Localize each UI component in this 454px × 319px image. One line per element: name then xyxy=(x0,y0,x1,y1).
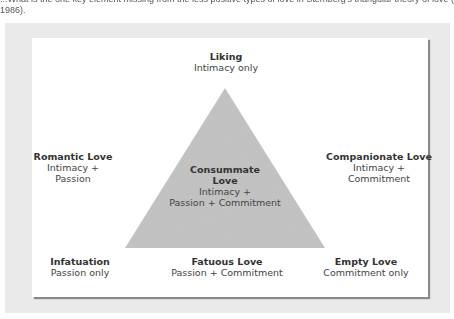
label-fatuous-love: Fatuous Love Passion + Commitment xyxy=(171,256,283,278)
label-empty-love: Empty Love Commitment only xyxy=(323,256,408,278)
label-romantic-love: Romantic Love Intimacy + Passion xyxy=(34,151,113,184)
label-liking: Liking Intimacy only xyxy=(194,51,258,73)
label-infatuation: Infatuation Passion only xyxy=(50,256,110,278)
label-companionate-love: Companionate Love Intimacy + Commitment xyxy=(326,151,432,184)
label-consummate-love: Consummate Love Intimacy + Passion + Com… xyxy=(169,164,281,208)
